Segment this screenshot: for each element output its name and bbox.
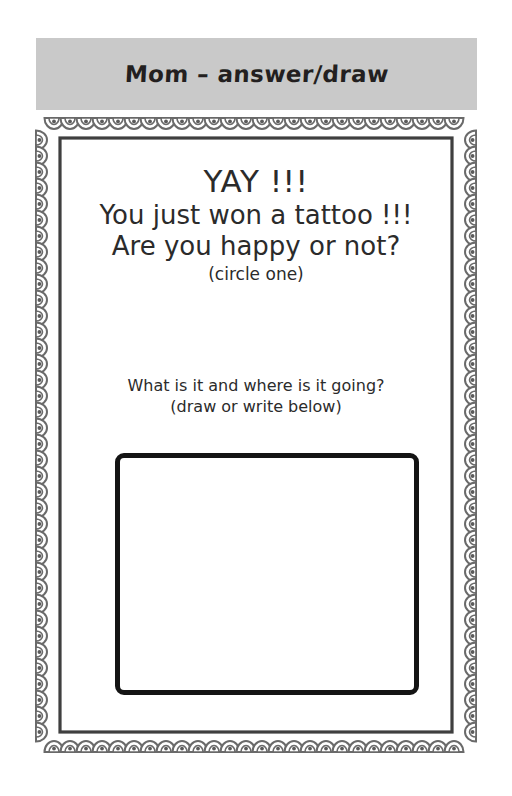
draw-instruction-text: What is it and where is it going? (draw … — [62, 375, 450, 417]
prompt-line-happy: Are you happy or not? — [62, 231, 450, 262]
border-scallops-right — [465, 131, 476, 742]
prompt-line-won: You just won a tattoo !!! — [62, 200, 450, 231]
header-title: Mom – answer/draw — [124, 61, 389, 87]
instruction-hint: (draw or write below) — [62, 396, 450, 417]
main-prompt-text: YAY !!! You just won a tattoo !!! Are yo… — [62, 163, 450, 286]
prompt-line-yay: YAY !!! — [62, 163, 450, 200]
instruction-question: What is it and where is it going? — [62, 375, 450, 396]
border-scallops-bottom — [45, 741, 464, 752]
border-scallops-left — [36, 131, 47, 742]
prompt-line-circle: (circle one) — [62, 262, 450, 286]
header-banner: Mom – answer/draw — [36, 38, 477, 110]
border-scallops-top — [45, 118, 464, 129]
drawing-answer-box[interactable] — [115, 453, 419, 695]
